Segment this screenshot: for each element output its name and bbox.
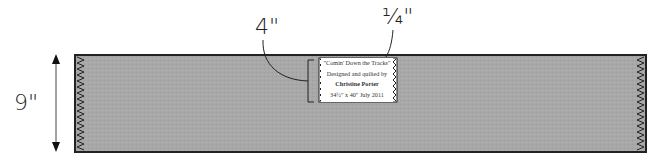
quilt-label-credit: Designed and quilted by	[321, 69, 393, 80]
height-dimension-label: 9"	[14, 90, 38, 115]
quilt-label-title: "Comin' Down the Tracks"	[321, 58, 393, 69]
quilt-label: "Comin' Down the Tracks" Designed and qu…	[321, 58, 393, 102]
arrow-down-icon	[52, 142, 60, 152]
quilt-label-size-date: 34½" x 40" July 2011	[321, 90, 393, 101]
arrow-up-icon	[52, 54, 60, 64]
quilt-label-maker: Christine Porter	[321, 79, 393, 90]
label-height-dimension: 4"	[255, 14, 279, 39]
label-inset-leader	[386, 30, 393, 57]
label-inset-dimension: ¼"	[382, 4, 413, 29]
